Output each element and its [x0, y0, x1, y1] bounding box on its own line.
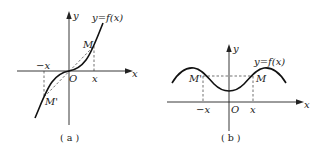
y-axis-arrow-b-icon: [226, 44, 231, 52]
figure-a: y x y=f(x) M M' O x −x ( a ): [17, 10, 138, 143]
diagram-canvas: y x y=f(x) M M' O x −x ( a ) y x y=f(x) …: [0, 0, 321, 156]
y-axis-arrow-a-icon: [66, 11, 71, 19]
point-m-label-a: M: [82, 39, 94, 50]
y-axis-label-b: y: [232, 43, 239, 54]
function-label-b: y=f(x): [253, 56, 285, 67]
y-axis-label-a: y: [72, 10, 79, 21]
point-m-prime-label-b: M': [188, 73, 202, 84]
figure-b: y x y=f(x) M M' O x −x ( b ): [167, 43, 310, 143]
tick-x-label-b: x: [250, 104, 256, 115]
x-axis-label-b: x: [304, 99, 310, 110]
point-m-label-b: M: [255, 73, 267, 84]
tick-x-label-a: x: [92, 73, 98, 84]
x-axis-label-a: x: [132, 68, 138, 79]
caption-a: ( a ): [60, 132, 79, 143]
tick-neg-x-label-a: −x: [36, 60, 50, 71]
origin-label-a: O: [69, 73, 77, 84]
caption-b: ( b ): [221, 132, 241, 143]
origin-label-b: O: [231, 104, 239, 115]
x-axis-arrow-b-icon: [296, 99, 304, 104]
tick-neg-x-label-b: −x: [196, 104, 210, 115]
point-m-prime-label-a: M': [44, 96, 58, 107]
function-label-a: y=f(x): [91, 12, 123, 23]
